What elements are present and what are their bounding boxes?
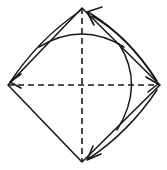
arrow-upper-right-to-right-shaft — [92, 16, 157, 81]
right-vertical-arc — [117, 44, 132, 130]
diagram-canvas — [0, 0, 167, 170]
geometric-figure — [0, 0, 167, 170]
arrow-right-to-bottom-shaft — [88, 90, 157, 159]
